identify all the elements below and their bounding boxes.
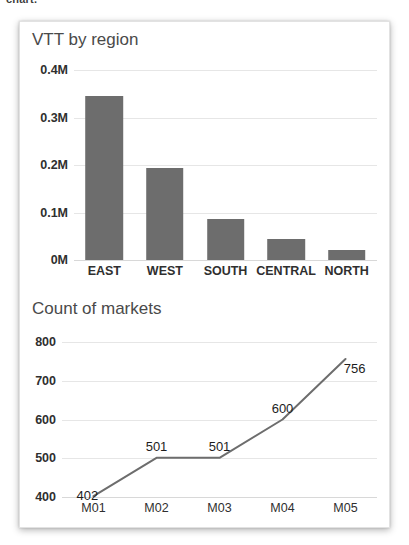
line-series-path[interactable] xyxy=(94,359,346,496)
bar-west[interactable] xyxy=(146,168,184,260)
y-axis-tick-label: 600 xyxy=(35,413,56,427)
gridline xyxy=(74,260,377,261)
y-axis-tick-label: 0.3M xyxy=(40,111,68,125)
chart-title-count-of-markets: Count of markets xyxy=(32,299,161,319)
x-axis-tick-label: WEST xyxy=(147,264,183,278)
report-card[interactable]: VTT by region 0M0.1M0.2M0.3M0.4M EASTWES… xyxy=(19,21,390,528)
y-axis-tick-label: 500 xyxy=(35,451,56,465)
y-axis-tick-label: 0M xyxy=(51,253,68,267)
chart-vtt-by-region[interactable]: VTT by region 0M0.1M0.2M0.3M0.4M EASTWES… xyxy=(20,22,389,287)
bar-chart-plot-area: 0M0.1M0.2M0.3M0.4M EASTWESTSOUTHCENTRALN… xyxy=(74,70,377,260)
bar-central[interactable] xyxy=(267,239,305,260)
bar-south[interactable] xyxy=(207,219,245,260)
y-axis-tick-label: 700 xyxy=(35,374,56,388)
x-axis-tick-label: M02 xyxy=(144,501,168,515)
x-axis-tick-label: M05 xyxy=(333,501,357,515)
screenshot-root: chart. VTT by region 0M0.1M0.2M0.3M0.4M … xyxy=(0,0,409,545)
data-point-label: 501 xyxy=(146,439,168,454)
bar-east[interactable] xyxy=(86,96,124,260)
gridline xyxy=(74,70,377,71)
line-chart-plot-area: 400500600700800 402501501600756 M01M02M0… xyxy=(62,342,377,497)
x-axis-tick-label: CENTRAL xyxy=(256,264,316,278)
data-point-label: 501 xyxy=(209,439,231,454)
y-axis-tick-label: 0.2M xyxy=(40,158,68,172)
truncated-caption-text: chart. xyxy=(6,0,37,5)
y-axis-tick-label: 0.1M xyxy=(40,206,68,220)
data-point-label: 756 xyxy=(344,361,366,376)
x-axis-tick-label: EAST xyxy=(88,264,121,278)
x-axis-tick-label: M04 xyxy=(270,501,294,515)
x-axis-tick-label: SOUTH xyxy=(204,264,248,278)
y-axis-tick-label: 400 xyxy=(35,490,56,504)
chart-title-vtt-by-region: VTT by region xyxy=(32,30,138,50)
bar-north[interactable] xyxy=(328,250,366,260)
y-axis-tick-label: 800 xyxy=(35,335,56,349)
data-point-label: 600 xyxy=(272,401,294,416)
chart-count-of-markets[interactable]: Count of markets 400500600700800 4025015… xyxy=(20,287,389,528)
line-chart-series[interactable] xyxy=(62,342,377,497)
x-axis-tick-label: M03 xyxy=(207,501,231,515)
gridline xyxy=(62,497,377,498)
x-axis-tick-label: M01 xyxy=(81,501,105,515)
y-axis-tick-label: 0.4M xyxy=(40,63,68,77)
x-axis-tick-label: NORTH xyxy=(324,264,368,278)
